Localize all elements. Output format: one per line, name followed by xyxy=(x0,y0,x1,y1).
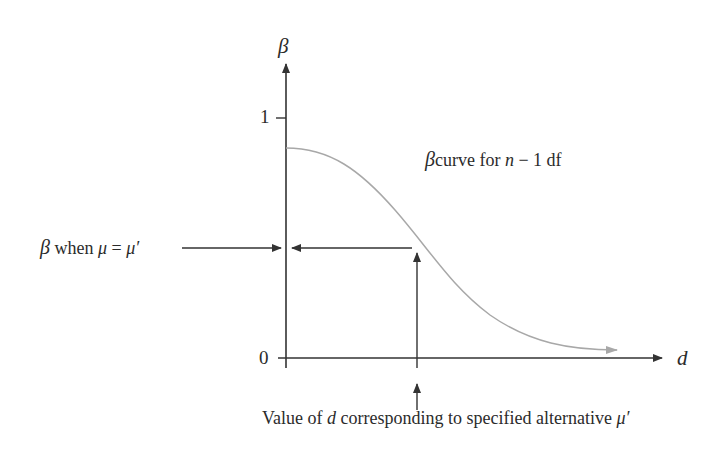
beta-when-mu-prime: μ′ xyxy=(126,238,139,258)
chart-canvas xyxy=(0,0,721,449)
y-tick-label-1: 1 xyxy=(260,106,270,128)
beta-when-label: β when μ = μ′ xyxy=(40,236,139,259)
curve-label-text: curve for xyxy=(435,150,505,170)
curve-label-n: n xyxy=(505,150,514,170)
y-axis-label: β xyxy=(278,34,288,59)
d-caption: Value of d corresponding to specified al… xyxy=(262,408,629,429)
x-axis-label: d xyxy=(677,346,688,371)
beta-when-text: when xyxy=(50,238,98,258)
caption-d: d xyxy=(327,408,336,428)
caption-rest: corresponding to specified alternative xyxy=(336,408,616,428)
curve-label-tail: − 1 df xyxy=(514,150,562,170)
y-tick-label-0: 0 xyxy=(259,347,269,369)
curve-label: βcurve for n − 1 df xyxy=(425,148,562,171)
beta-when-mu: μ xyxy=(98,238,107,258)
beta-when-beta: β xyxy=(40,236,50,258)
beta-curve xyxy=(286,148,617,350)
caption-mu-prime: μ′ xyxy=(616,408,629,428)
beta-when-eq: = xyxy=(107,238,126,258)
caption-start: Value of xyxy=(262,408,327,428)
curve-label-beta: β xyxy=(425,148,435,170)
